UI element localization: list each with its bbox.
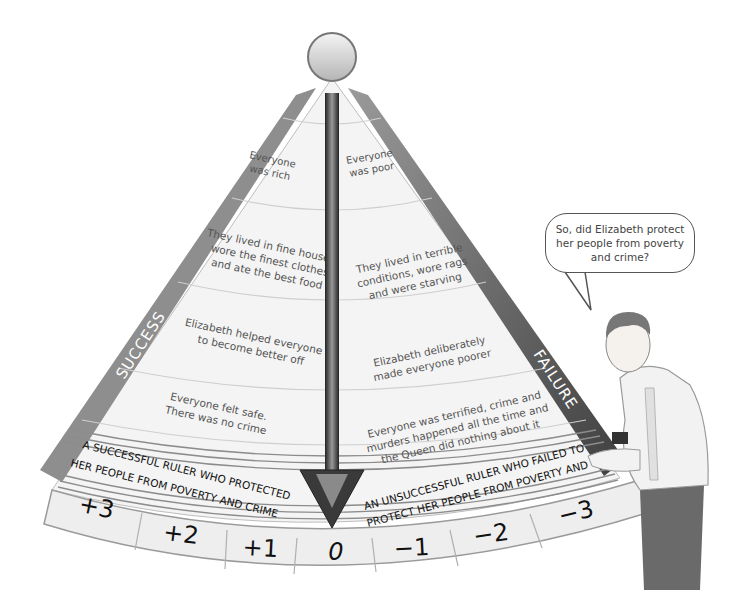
pivot-knob bbox=[308, 33, 356, 81]
score-plus-1[interactable]: +1 bbox=[242, 533, 279, 563]
score-minus-1[interactable]: −1 bbox=[393, 533, 430, 563]
score-plus-2[interactable]: +2 bbox=[162, 518, 201, 550]
speech-bubble: So, did Elizabeth protect her people fro… bbox=[545, 213, 695, 273]
score-minus-2[interactable]: −2 bbox=[471, 518, 510, 551]
judgement-scale-diagram: SUCCESS FAILURE Everyonewas rich They li… bbox=[0, 0, 731, 600]
speech-bubble-tail bbox=[565, 272, 591, 310]
score-zero[interactable]: 0 bbox=[328, 538, 343, 566]
teacher-figure bbox=[588, 312, 708, 590]
speech-bubble-text: So, did Elizabeth protect her people fro… bbox=[552, 222, 688, 265]
